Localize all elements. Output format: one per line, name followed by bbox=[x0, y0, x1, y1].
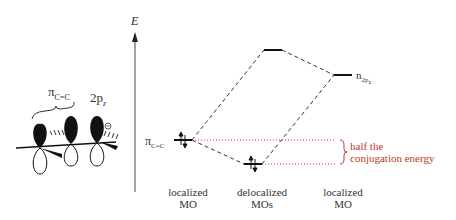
2pz-orbital-label: 2pz bbox=[90, 92, 106, 110]
conjugation-energy-annotation: half the conjugation energy bbox=[350, 140, 434, 164]
column-label-localized-right: localized MO bbox=[308, 186, 378, 210]
p-orbitals-illustration bbox=[16, 102, 118, 174]
energy-axis-label: E bbox=[131, 14, 138, 29]
correlation-lines bbox=[192, 50, 334, 164]
conjugation-energy-brace bbox=[340, 140, 347, 164]
n2pz-level-label: n2pz bbox=[356, 69, 371, 89]
column-label-localized-left: localized MO bbox=[153, 186, 223, 210]
pi-cc-level-label: πC=C bbox=[145, 135, 164, 152]
column-label-delocalized: delocalized MOs bbox=[222, 186, 302, 210]
conjugation-energy-guides bbox=[192, 140, 336, 164]
energy-axis bbox=[132, 32, 138, 192]
energy-levels bbox=[174, 50, 352, 164]
pi-cc-orbital-label: πC=C bbox=[48, 86, 70, 104]
